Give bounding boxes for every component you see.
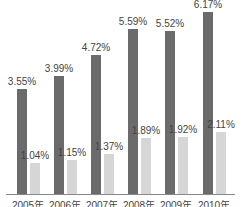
x-axis-line — [6, 194, 235, 195]
x-tick-label: 2007年 — [86, 197, 118, 207]
bar-chart: 3.55%1.04%2005年3.99%1.15%2006年4.72%1.37%… — [0, 0, 245, 207]
data-label: 1.15% — [58, 147, 86, 158]
data-label: 4.72% — [82, 42, 110, 53]
data-label: 1.04% — [21, 150, 49, 161]
data-label: 2.11% — [207, 119, 235, 130]
data-label: 3.99% — [45, 63, 73, 74]
bar-series-2-3 — [141, 138, 151, 194]
bar-series-2-2 — [104, 154, 114, 194]
x-tick-label: 2005年 — [12, 197, 44, 207]
bar-series-1-1 — [54, 76, 64, 194]
bar-series-2-0 — [30, 163, 40, 194]
data-label: 1.89% — [132, 125, 160, 136]
data-label: 5.59% — [119, 16, 147, 27]
bar-series-1-3 — [128, 29, 138, 194]
bar-series-1-4 — [165, 31, 175, 194]
bar-series-2-1 — [67, 160, 77, 194]
data-label: 1.37% — [95, 141, 123, 152]
x-tick-label: 2009年 — [160, 197, 192, 207]
data-label: 5.52% — [156, 18, 184, 29]
bar-series-2-4 — [178, 137, 188, 194]
data-label: 1.92% — [169, 124, 197, 135]
bar-series-1-2 — [91, 55, 101, 194]
bar-series-1-0 — [17, 89, 27, 194]
x-tick-label: 2010年 — [198, 197, 230, 207]
bar-series-1-5 — [203, 12, 213, 194]
x-tick-label: 2008年 — [123, 197, 155, 207]
data-label: 3.55% — [8, 76, 36, 87]
data-label: 6.17% — [194, 0, 222, 10]
x-tick-label: 2006年 — [49, 197, 81, 207]
bar-series-2-5 — [216, 132, 226, 194]
